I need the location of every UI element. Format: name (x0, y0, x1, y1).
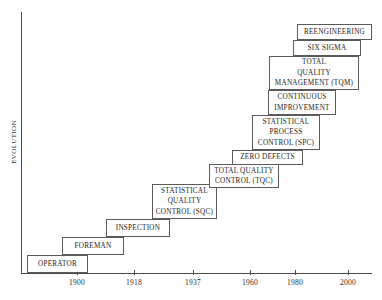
step-box-label: TOTAL QUALITY (214, 166, 274, 176)
step-box-label: IMPROVEMENT (274, 103, 329, 113)
step-box-label: QUALITY (168, 196, 202, 206)
step-box-zero-defects: ZERO DEFECTS (232, 150, 303, 165)
step-box-label: PROCESS (270, 127, 303, 137)
x-axis-tick (348, 270, 349, 275)
x-axis-tick (250, 270, 251, 275)
x-axis-line (21, 273, 372, 274)
step-box-label: STATISTICAL (161, 186, 208, 196)
step-box-foreman: FOREMAN (62, 237, 124, 255)
step-box-label: STATISTICAL (263, 117, 310, 127)
step-box-statistical-process-control-spc: STATISTICALPROCESSCONTROL (SPC) (252, 115, 320, 150)
x-axis-tick-label: 1937 (173, 278, 213, 287)
step-box-label: FOREMAN (75, 241, 112, 251)
step-box-reengineering: REENGINEERING (297, 24, 372, 40)
step-box-label: REENGINEERING (304, 27, 365, 37)
x-axis-tick (193, 270, 194, 275)
step-box-inspection: INSPECTION (106, 219, 170, 237)
x-axis-tick-label: 1980 (275, 278, 315, 287)
step-box-label: TOTAL (302, 57, 326, 67)
step-box-label: CONTROL (TQC) (215, 176, 273, 186)
step-box-label: CONTROL (SPC) (258, 138, 314, 148)
step-box-label: CONTROL (SQC) (156, 207, 214, 217)
step-box-label: MANAGEMENT (TQM) (275, 78, 353, 88)
step-box-label: INSPECTION (116, 223, 160, 233)
x-axis-tick (134, 270, 135, 275)
step-box-total-quality-control-tqc: TOTAL QUALITYCONTROL (TQC) (209, 164, 279, 188)
step-box-six-sigma: SIX SIGMA (293, 40, 361, 56)
x-axis-tick (295, 270, 296, 275)
step-box-label: CONTINUOUS (277, 92, 326, 102)
x-axis-tick-label: 1960 (230, 278, 270, 287)
y-axis-label: EVOLUTION (10, 102, 18, 182)
x-axis-tick-label: 2000 (328, 278, 368, 287)
step-box-total-quality-management-tqm: TOTALQUALITYMANAGEMENT (TQM) (269, 56, 359, 90)
step-box-continuous-improvement: CONTINUOUSIMPROVEMENT (268, 90, 336, 115)
step-box-label: QUALITY (297, 68, 331, 78)
step-box-label: ZERO DEFECTS (240, 152, 295, 162)
x-axis-tick-label: 1918 (114, 278, 154, 287)
step-box-label: SIX SIGMA (308, 43, 347, 53)
quality-evolution-chart: EVOLUTION 190019181937196019802000 OPERA… (0, 0, 382, 300)
step-box-operator: OPERATOR (27, 255, 88, 273)
step-box-statistical-quality-control-sqc: STATISTICALQUALITYCONTROL (SQC) (152, 184, 217, 219)
y-axis-line (21, 12, 22, 274)
x-axis-tick-label: 1900 (57, 278, 97, 287)
step-box-label: OPERATOR (38, 259, 77, 269)
